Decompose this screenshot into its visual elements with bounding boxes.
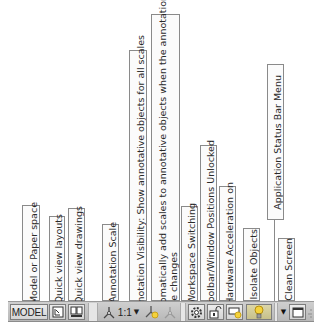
callout-label: Annotation Visibility: Show annotative o…	[135, 32, 146, 318]
callout-label: Isolate Objects	[248, 226, 259, 303]
callout-application-status-bar-menu: Application Status Bar Menu	[267, 64, 284, 220]
grip-icon	[307, 306, 313, 318]
callout-label: Automatically add scales to annotative o…	[157, 0, 179, 323]
callout-label: Hardware Acceleration on	[224, 179, 235, 308]
callout-annotation-visibility: Annotation Visibility: Show annotative o…	[129, 50, 147, 301]
quick-view-layouts-button[interactable]	[49, 304, 66, 320]
leader-line	[274, 220, 275, 301]
callout-quick-view-drawings: Quick view drawings	[68, 208, 85, 301]
callout-model-or-paper-space: Model or Paper space	[22, 205, 40, 301]
callout-label: Clean Screen	[283, 235, 294, 304]
callout-annotation-scale: Annotation Scale	[102, 224, 119, 301]
callout-toolbar-window-positions: Toolbar/Window Positions Unlocked	[200, 145, 217, 301]
hardware-acceleration-button[interactable]	[226, 304, 243, 320]
application-status-bar: MODEL 1:1 ▼ ▼	[8, 301, 314, 322]
callout-auto-add-scales: Automatically add scales to annotative o…	[151, 14, 180, 301]
annotation-visibility-icon	[145, 305, 159, 319]
annotation-scale-button[interactable]: 1:1 ▼	[101, 304, 141, 320]
callout-hardware-acceleration: Hardware Acceleration on	[219, 186, 236, 301]
toolbar-lock-button[interactable]	[207, 304, 224, 320]
annotation-scale-icon	[103, 306, 115, 319]
separator	[180, 303, 186, 321]
isolate-objects-button[interactable]	[246, 304, 272, 320]
callout-quick-view-layouts: Quick view layouts	[49, 216, 65, 301]
callout-label: Model or Paper space	[28, 199, 39, 307]
callout-label: Quick view drawings	[73, 203, 84, 307]
clean-screen-button[interactable]	[289, 304, 306, 320]
auto-scale-icon	[164, 306, 177, 319]
annotation-visibility-button[interactable]	[144, 304, 160, 320]
callout-label: Annotation Scale	[107, 219, 118, 306]
model-space-button[interactable]: MODEL	[10, 304, 48, 320]
callout-label: Quick view layouts	[53, 211, 64, 306]
lightbulb-icon	[254, 305, 264, 319]
lock-icon	[209, 306, 222, 319]
callout-label: Workspace Switching	[186, 200, 197, 307]
drawings-icon	[70, 306, 83, 318]
callout-label: Toolbar/Window Positions Unlocked	[205, 137, 216, 310]
quick-view-drawings-button[interactable]	[68, 304, 85, 320]
callout-workspace-switching: Workspace Switching	[181, 206, 198, 301]
callout-label: Application Status Bar Menu	[272, 72, 283, 213]
callout-clean-screen: Clean Screen	[278, 238, 295, 301]
hardware-acceleration-icon	[228, 306, 242, 319]
callout-isolate-objects: Isolate Objects	[243, 228, 260, 301]
workspace-switching-button[interactable]	[188, 304, 205, 320]
annotation-scale-value: 1:1	[118, 307, 132, 318]
resize-grip[interactable]	[307, 304, 313, 320]
layout-icon	[52, 306, 64, 318]
separator	[274, 303, 278, 321]
callout-label-line1: Automatically add scales to annotative o…	[157, 0, 168, 320]
model-label: MODEL	[12, 307, 47, 318]
separator	[88, 303, 98, 321]
gear-icon	[190, 306, 203, 319]
auto-add-scales-button[interactable]	[162, 304, 178, 320]
application-status-bar-menu-button[interactable]: ▼	[279, 304, 288, 320]
clean-screen-icon	[292, 307, 304, 318]
dropdown-arrow-icon: ▼	[281, 308, 286, 316]
chevron-down-icon[interactable]: ▼	[134, 308, 139, 316]
